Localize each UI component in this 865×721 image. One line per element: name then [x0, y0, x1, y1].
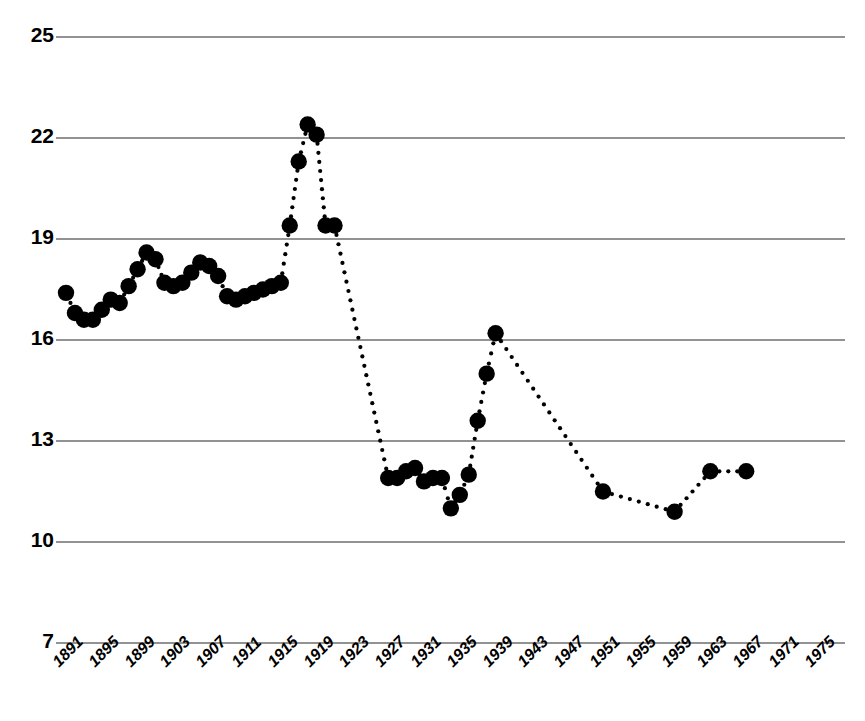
data-point [308, 126, 324, 142]
connector-dot [374, 420, 378, 424]
connector-dot [346, 289, 350, 293]
connector-dot [370, 401, 374, 405]
connector-dot [338, 251, 342, 255]
data-point [666, 504, 682, 520]
connector-dot [479, 400, 483, 404]
connector-dot [619, 494, 623, 498]
connector-dot [487, 361, 491, 365]
y-tick-label-22: 22 [8, 124, 54, 148]
connector-dot [536, 394, 540, 398]
connector-dot [378, 439, 382, 443]
connector-dot [376, 429, 380, 433]
series-data-points [58, 116, 755, 520]
connector-dot [471, 446, 475, 450]
connector-dot [342, 270, 346, 274]
connector-dot [515, 363, 519, 367]
connector-dot [563, 434, 567, 438]
connector-dot [317, 160, 321, 164]
connector-dot [301, 141, 305, 145]
connector-dot [283, 252, 287, 256]
connector-dot [221, 284, 225, 288]
connector-dot [318, 169, 322, 173]
connector-dot [696, 483, 700, 487]
connector-dot [354, 326, 358, 330]
data-point [282, 217, 298, 233]
data-point [326, 217, 342, 233]
series-connector-line [68, 132, 739, 512]
connector-dot [526, 379, 530, 383]
connector-dot [372, 410, 376, 414]
y-tick-label-16: 16 [8, 326, 54, 350]
connector-dot [356, 336, 360, 340]
data-point [120, 278, 136, 294]
connector-dot [322, 205, 326, 209]
connector-dot [366, 382, 370, 386]
scatter-plot-svg [0, 0, 865, 721]
data-point [112, 295, 128, 311]
connector-dot [290, 205, 294, 209]
y-tick-label-13: 13 [8, 427, 54, 451]
y-tick-label-19: 19 [8, 225, 54, 249]
connector-dot [348, 298, 352, 302]
data-point [129, 261, 145, 277]
connector-dot [473, 437, 477, 441]
connector-dot [294, 178, 298, 182]
connector-dot [684, 496, 688, 500]
data-point [452, 487, 468, 503]
connector-dot [547, 410, 551, 414]
connector-dot [553, 418, 557, 422]
connector-dot [319, 178, 323, 182]
connector-dot [350, 308, 354, 312]
connector-dot [446, 496, 450, 500]
connector-dot [68, 301, 72, 305]
connector-dot [282, 262, 286, 266]
y-tick-label-10: 10 [8, 528, 54, 552]
connector-dot [364, 373, 368, 377]
y-tick-label-7: 7 [8, 629, 54, 653]
connector-dot [368, 392, 372, 396]
connector-dot [336, 242, 340, 246]
connector-dot [360, 354, 364, 358]
data-point [478, 365, 494, 381]
data-point [487, 325, 503, 341]
data-point [443, 500, 459, 516]
connector-dot [293, 187, 297, 191]
connector-dot [291, 196, 295, 200]
data-point [595, 483, 611, 499]
connector-dot [542, 402, 546, 406]
connector-dot [646, 502, 650, 506]
y-tick-label-25: 25 [8, 23, 54, 47]
connector-dot [382, 457, 386, 461]
connector-dot [590, 474, 594, 478]
data-point [273, 275, 289, 291]
data-point [702, 463, 718, 479]
connector-dot [531, 387, 535, 391]
data-point [470, 413, 486, 429]
connector-dot [344, 280, 348, 284]
data-point [147, 251, 163, 267]
connector-dot [380, 448, 384, 452]
data-point [58, 285, 74, 301]
connector-dot [481, 390, 485, 394]
connector-dot [340, 261, 344, 265]
connector-dot [579, 458, 583, 462]
connector-dot [520, 371, 524, 375]
connector-dot [358, 345, 362, 349]
connector-dot [585, 466, 589, 470]
connector-dot [655, 505, 659, 509]
data-point [291, 153, 307, 169]
connector-dot [510, 355, 514, 359]
connector-dot [443, 486, 447, 490]
connector-dot [285, 243, 289, 247]
connector-dot [362, 364, 366, 368]
connector-dot [637, 500, 641, 504]
chart-container: 2522191613107 18911895189919031907191119… [0, 0, 865, 721]
data-point [434, 470, 450, 486]
connector-dot [489, 351, 493, 355]
connector-dot [569, 442, 573, 446]
data-point [738, 463, 754, 479]
connector-dot [504, 347, 508, 351]
data-point [407, 460, 423, 476]
connector-dot [574, 450, 578, 454]
data-point [461, 466, 477, 482]
